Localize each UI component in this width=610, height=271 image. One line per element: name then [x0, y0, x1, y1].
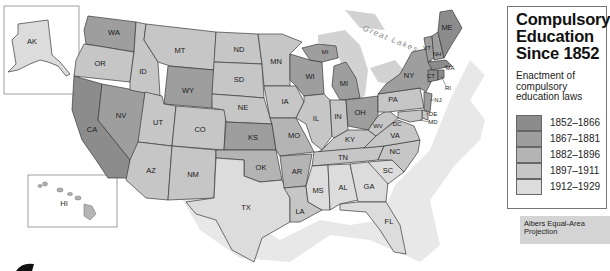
svg-text:MI: MI: [322, 49, 329, 55]
svg-text:IL: IL: [313, 114, 319, 123]
svg-text:NM: NM: [187, 170, 199, 179]
svg-text:NY: NY: [404, 71, 414, 80]
state-NJ[interactable]: [424, 92, 432, 112]
svg-text:KY: KY: [345, 135, 355, 144]
svg-text:VT: VT: [423, 45, 431, 51]
svg-text:SD: SD: [234, 75, 245, 84]
svg-text:DE: DE: [429, 111, 437, 117]
svg-text:OR: OR: [94, 59, 106, 68]
svg-text:FL: FL: [385, 217, 394, 226]
svg-text:MA: MA: [446, 65, 455, 71]
svg-text:AZ: AZ: [146, 166, 156, 175]
legend-title: Compulsory Education Since 1852: [516, 11, 606, 62]
svg-text:GA: GA: [364, 182, 375, 191]
svg-text:TN: TN: [338, 153, 348, 162]
legend-label: 1897–1911: [550, 165, 599, 176]
svg-text:SC: SC: [383, 166, 394, 175]
svg-text:VA: VA: [390, 131, 399, 140]
svg-text:NE: NE: [238, 103, 248, 112]
state-RI[interactable]: [438, 70, 444, 80]
svg-text:CO: CO: [194, 125, 205, 134]
legend-item: 1867–1881: [516, 131, 606, 147]
svg-text:MT: MT: [175, 46, 186, 55]
legend-label: 1882–1896: [550, 149, 600, 160]
hawaii-inset-frame: [28, 175, 117, 227]
legend-label: 1867–1881: [550, 133, 600, 144]
svg-text:OH: OH: [354, 108, 365, 117]
legend-label: 1912–1929: [550, 181, 600, 192]
legend-item: 1912–1929: [516, 179, 606, 195]
svg-text:CT: CT: [427, 73, 435, 79]
svg-text:AL: AL: [338, 183, 347, 192]
legend-item: 1852–1866: [516, 115, 606, 131]
svg-text:KS: KS: [248, 133, 258, 142]
svg-text:PA: PA: [388, 95, 397, 104]
projection-note: Albers Equal-Area Projection: [520, 216, 610, 244]
svg-text:OK: OK: [256, 163, 267, 172]
label-AK: AK: [27, 37, 37, 46]
state-MD[interactable]: [398, 110, 422, 122]
svg-text:NJ: NJ: [434, 97, 441, 103]
svg-text:CA: CA: [87, 125, 97, 134]
state-DE[interactable]: [422, 110, 428, 120]
svg-text:IN: IN: [334, 112, 342, 121]
legend-subtitle: Enactment of compulsory education laws: [516, 71, 606, 103]
svg-text:MN: MN: [270, 57, 282, 66]
legend-panel: Compulsory Education Since 1852 Enactmen…: [507, 6, 607, 209]
legend-items: 1852–1866 1867–1881 1882–1896 1897–1911 …: [516, 115, 606, 195]
legend-swatch: [516, 179, 542, 195]
great-lakes-label: Great Lakes: [361, 24, 420, 55]
legend-swatch: [516, 115, 542, 131]
svg-text:ME: ME: [441, 23, 452, 32]
svg-text:ID: ID: [139, 67, 147, 76]
svg-text:MO: MO: [288, 131, 300, 140]
legend-swatch: [516, 163, 542, 179]
svg-text:NC: NC: [390, 147, 401, 156]
svg-text:ND: ND: [234, 45, 245, 54]
svg-text:WY: WY: [182, 86, 194, 95]
svg-text:WI: WI: [305, 72, 314, 81]
legend-label: 1852–1866: [550, 117, 600, 128]
svg-text:MD: MD: [428, 119, 438, 125]
label-HI: HI: [60, 199, 68, 208]
legend-item: 1897–1911: [516, 163, 606, 179]
svg-text:WA: WA: [108, 28, 120, 37]
legend-swatch: [516, 131, 542, 147]
legend-swatch: [516, 147, 542, 163]
svg-text:LA: LA: [295, 207, 304, 216]
legend-item: 1882–1896: [516, 147, 606, 163]
compass-fragment: [16, 264, 34, 271]
svg-text:WV: WV: [373, 123, 383, 129]
svg-text:AR: AR: [292, 167, 303, 176]
svg-text:NH: NH: [433, 51, 442, 57]
svg-text:UT: UT: [153, 118, 163, 127]
svg-text:MI: MI: [340, 79, 348, 88]
svg-text:TX: TX: [241, 203, 251, 212]
svg-text:DC: DC: [393, 121, 402, 127]
svg-text:NV: NV: [116, 111, 126, 120]
svg-text:MS: MS: [312, 186, 323, 195]
svg-text:IA: IA: [281, 97, 288, 106]
